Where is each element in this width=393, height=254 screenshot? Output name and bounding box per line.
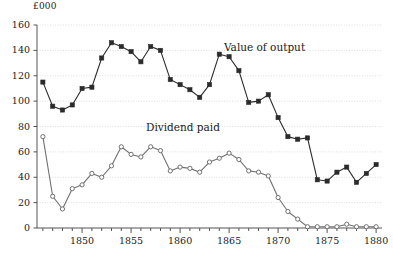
y-axis-tick-label: 100 bbox=[4, 95, 30, 106]
gridlines bbox=[37, 25, 382, 203]
y-axis-tick-label: 120 bbox=[4, 70, 30, 81]
y-axis-tick-label: 140 bbox=[4, 44, 30, 55]
series-annotation: Value of output bbox=[224, 41, 305, 53]
x-axis-tick-label: 1865 bbox=[209, 235, 249, 246]
x-axis-tick-label: 1880 bbox=[356, 235, 393, 246]
y-axis-tick-label: 40 bbox=[4, 171, 30, 182]
y-axis-tick-label: 80 bbox=[4, 121, 30, 132]
y-axis-tick-label: 20 bbox=[4, 197, 30, 208]
x-axis-tick-label: 1855 bbox=[111, 235, 151, 246]
x-axis-tick-label: 1870 bbox=[258, 235, 298, 246]
series-annotation: Dividend paid bbox=[146, 121, 220, 133]
y-axis-tick-label: 0 bbox=[4, 222, 30, 233]
x-axis-tick-label: 1850 bbox=[62, 235, 102, 246]
x-axis-tick-label: 1860 bbox=[160, 235, 200, 246]
y-axis-ticks bbox=[34, 25, 38, 228]
x-axis-tick-label: 1875 bbox=[307, 235, 347, 246]
y-axis-tick-label: 60 bbox=[4, 146, 30, 157]
data-series bbox=[41, 41, 378, 229]
y-axis-tick-label: 160 bbox=[4, 19, 30, 30]
